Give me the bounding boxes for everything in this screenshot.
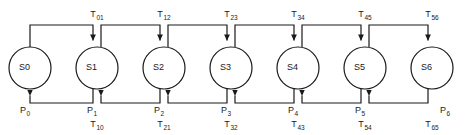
label-base: T — [90, 119, 96, 129]
forward-transition-t01 — [30, 25, 93, 47]
label-base: T — [358, 9, 364, 19]
state-label-s5: S5 — [354, 63, 365, 72]
state-label-s0: S0 — [19, 63, 30, 72]
state-label-s6: S6 — [421, 63, 432, 72]
backward-transition-t65 — [369, 89, 428, 103]
label-subscript: 4 — [294, 110, 298, 117]
state-label-s3: S3 — [220, 63, 231, 72]
label-subscript: 54 — [364, 124, 372, 131]
backward-transition-label-t54: T54 — [358, 120, 371, 129]
label-base: T — [425, 9, 431, 19]
probability-label-p6: P6 — [440, 106, 450, 115]
label-subscript: 43 — [297, 124, 305, 131]
label-subscript: 23 — [230, 14, 238, 21]
state-label-subscript: 2 — [159, 62, 164, 72]
state-label-subscript: 4 — [293, 62, 298, 72]
label-subscript: 0 — [26, 110, 30, 117]
label-base: T — [224, 119, 230, 129]
forward-transition-label-t34: T34 — [291, 10, 304, 19]
label-base: T — [291, 119, 297, 129]
label-base: T — [157, 119, 163, 129]
label-subscript: 5 — [361, 110, 365, 117]
label-base: T — [358, 119, 364, 129]
forward-transition-t23 — [168, 25, 227, 47]
state-label-subscript: 6 — [427, 62, 432, 72]
label-subscript: 10 — [96, 124, 104, 131]
label-subscript: 56 — [431, 14, 439, 21]
backward-transition-label-t65: T65 — [425, 120, 438, 129]
backward-transition-t10 — [30, 89, 93, 103]
probability-label-p2: P2 — [154, 106, 164, 115]
backward-transition-label-t10: T10 — [90, 120, 103, 129]
label-base: T — [291, 9, 297, 19]
backward-transition-t32 — [168, 89, 227, 103]
state-label-subscript: 1 — [92, 62, 97, 72]
forward-transition-t34 — [235, 25, 294, 47]
state-label-s4: S4 — [287, 63, 298, 72]
forward-transition-label-t12: T12 — [157, 10, 170, 19]
label-subscript: 21 — [163, 124, 171, 131]
state-label-s2: S2 — [153, 63, 164, 72]
backward-transition-t54 — [302, 89, 361, 103]
backward-transition-label-t43: T43 — [291, 120, 304, 129]
probability-label-p1: P1 — [87, 106, 97, 115]
backward-transition-label-t21: T21 — [157, 120, 170, 129]
probability-label-p5: P5 — [355, 106, 365, 115]
label-subscript: 6 — [446, 110, 450, 117]
backward-transition-label-t32: T32 — [224, 120, 237, 129]
label-subscript: 01 — [96, 14, 104, 21]
label-subscript: 1 — [93, 110, 97, 117]
diagram-canvas: S0S1S2S3S4S5S6T01T12T23T34T45T56T10T21T3… — [0, 0, 468, 135]
label-subscript: 65 — [431, 124, 439, 131]
label-subscript: 2 — [160, 110, 164, 117]
probability-label-p3: P3 — [221, 106, 231, 115]
forward-transition-label-t45: T45 — [358, 10, 371, 19]
state-label-s1: S1 — [86, 63, 97, 72]
forward-transition-label-t56: T56 — [425, 10, 438, 19]
label-base: T — [90, 9, 96, 19]
forward-transition-t56 — [369, 25, 428, 47]
label-base: T — [425, 119, 431, 129]
label-subscript: 3 — [227, 110, 231, 117]
forward-transition-t12 — [101, 25, 160, 47]
forward-transition-label-t23: T23 — [224, 10, 237, 19]
probability-label-p4: P4 — [288, 106, 298, 115]
label-subscript: 34 — [297, 14, 305, 21]
backward-transition-t21 — [101, 89, 160, 103]
forward-transition-label-t01: T01 — [90, 10, 103, 19]
label-base: T — [157, 9, 163, 19]
label-subscript: 32 — [230, 124, 238, 131]
label-subscript: 12 — [163, 14, 171, 21]
backward-transition-t43 — [235, 89, 294, 103]
forward-transition-t45 — [302, 25, 361, 47]
state-label-subscript: 0 — [25, 62, 30, 72]
probability-label-p0: P0 — [20, 106, 30, 115]
state-label-subscript: 5 — [360, 62, 365, 72]
state-label-subscript: 3 — [226, 62, 231, 72]
label-base: T — [224, 9, 230, 19]
label-subscript: 45 — [364, 14, 372, 21]
